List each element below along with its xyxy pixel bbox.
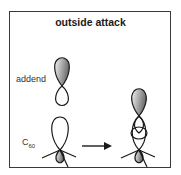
addend-orbital-icon xyxy=(55,58,70,106)
orbital-diagram xyxy=(0,0,181,175)
c60-orbital-icon xyxy=(42,117,76,167)
product-orbital-icon xyxy=(121,89,155,167)
reaction-arrow-icon xyxy=(82,142,112,150)
